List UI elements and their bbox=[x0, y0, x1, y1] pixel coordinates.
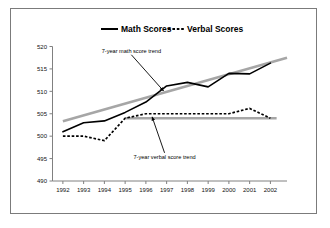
y-tick-label: 495 bbox=[37, 156, 48, 162]
y-tick-label: 510 bbox=[37, 89, 48, 95]
y-tick-label: 490 bbox=[37, 178, 48, 184]
x-tick-label: 1992 bbox=[56, 187, 70, 193]
x-tick-label: 2002 bbox=[264, 187, 278, 193]
annotation-arrow-2 bbox=[152, 117, 164, 153]
annotation-label-2: 7-year verbal score trend bbox=[133, 154, 195, 160]
chart-legend: Math ScoresVerbal Scores bbox=[101, 24, 244, 34]
y-tick-label: 505 bbox=[37, 111, 48, 117]
annotation-arrow-1 bbox=[131, 55, 163, 91]
x-tick-label: 1993 bbox=[77, 187, 91, 193]
y-tick-label: 515 bbox=[37, 66, 48, 72]
y-tick-label: 520 bbox=[37, 44, 48, 50]
chart-figure: Math ScoresVerbal Scores 490495500505510… bbox=[0, 0, 330, 228]
x-tick-label: 2001 bbox=[243, 187, 257, 193]
x-tick-label: 1998 bbox=[181, 187, 195, 193]
series-line-math-scores bbox=[63, 63, 271, 132]
x-tick-label: 1995 bbox=[118, 187, 132, 193]
y-tick-label: 500 bbox=[37, 133, 48, 139]
x-tick-label: 1996 bbox=[139, 187, 153, 193]
chart-annotations: 7-year math score trend7-year verbal sco… bbox=[102, 48, 196, 160]
annotation-label-1: 7-year math score trend bbox=[102, 48, 161, 54]
x-tick-label: 2000 bbox=[222, 187, 236, 193]
legend-label-1: Math Scores bbox=[121, 24, 172, 34]
x-tick-label: 1994 bbox=[98, 187, 112, 193]
trend-lines bbox=[63, 58, 287, 122]
trend-line-1 bbox=[63, 58, 287, 122]
x-tick-label: 1999 bbox=[201, 187, 215, 193]
line-chart-svg: Math ScoresVerbal Scores 490495500505510… bbox=[0, 0, 330, 228]
legend-label-2: Verbal Scores bbox=[187, 24, 244, 34]
data-series bbox=[63, 63, 271, 141]
x-tick-label: 1997 bbox=[160, 187, 174, 193]
